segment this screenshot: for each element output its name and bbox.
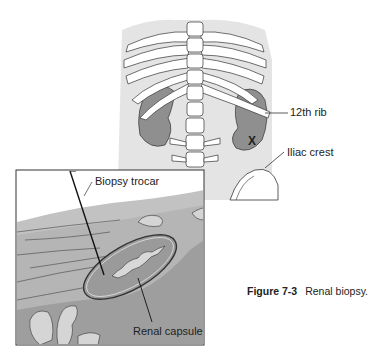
figure-title: Renal biopsy.	[305, 285, 368, 297]
label-biopsy-trocar: Biopsy trocar	[95, 175, 159, 187]
inset-cross-section	[16, 170, 204, 345]
label-biopsy-site-marker: X	[248, 134, 256, 148]
label-renal-capsule: Renal capsule	[133, 325, 203, 337]
figure-caption: Figure 7-3Renal biopsy.	[247, 285, 368, 297]
figure-number: Figure 7-3	[247, 285, 297, 297]
label-12th-rib: 12th rib	[290, 106, 327, 118]
label-iliac-crest: Iliac crest	[287, 146, 333, 158]
